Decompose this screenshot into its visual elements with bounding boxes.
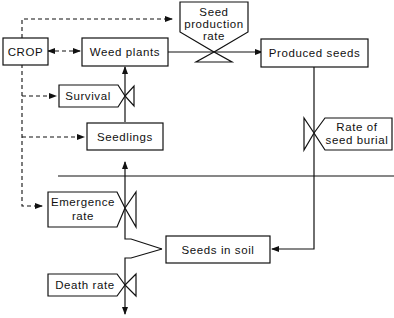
svg-text:rate: rate — [203, 30, 225, 42]
node-crop: CROP — [3, 38, 48, 65]
node-emergence-rate: Emergence rate — [48, 192, 136, 227]
svg-text:Produced seeds: Produced seeds — [269, 47, 361, 59]
weed-lifecycle-diagram: CROP Weed plants Seed production rate Pr… — [0, 0, 394, 318]
node-seed-production-rate: Seed production rate — [180, 2, 248, 62]
node-seedlings: Seedlings — [87, 123, 163, 150]
flow-lines — [125, 52, 314, 314]
svg-text:Emergence: Emergence — [51, 196, 115, 208]
node-seeds-in-soil: Seeds in soil — [166, 236, 270, 263]
svg-text:Seeds in soil: Seeds in soil — [181, 244, 254, 256]
node-rate-of-seed-burial: Rate of seed burial — [304, 118, 392, 150]
svg-text:Seed: Seed — [199, 6, 228, 18]
svg-text:seed burial: seed burial — [326, 134, 389, 146]
svg-text:production: production — [184, 18, 244, 30]
svg-text:Rate of: Rate of — [336, 121, 377, 133]
svg-text:rate: rate — [72, 210, 94, 222]
svg-text:Death rate: Death rate — [55, 279, 115, 291]
node-produced-seeds: Produced seeds — [261, 39, 368, 67]
node-weed-plants: Weed plants — [82, 38, 168, 66]
svg-text:Survival: Survival — [65, 90, 111, 102]
node-death-rate: Death rate — [48, 274, 136, 296]
node-survival: Survival — [59, 85, 134, 107]
svg-text:Weed plants: Weed plants — [90, 46, 160, 58]
svg-text:CROP: CROP — [8, 46, 44, 58]
svg-text:Seedlings: Seedlings — [97, 131, 153, 143]
